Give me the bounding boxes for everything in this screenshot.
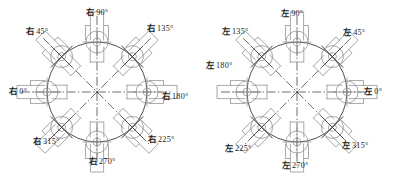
panel-left-hand-drawing <box>197 0 394 182</box>
panel-right-hand: 右 0° 右 45° 右 90° 右 135° 右 180° 右 225° 右 … <box>0 0 197 182</box>
orientation-figure: 右 0° 右 45° 右 90° 右 135° 右 180° 右 225° 右 … <box>0 0 394 182</box>
panel-right-hand-drawing <box>0 0 197 182</box>
panel-left-hand: 左 0° 左 45° 左 90° 左 135° 左 180° 左 225° 左 … <box>197 0 394 182</box>
